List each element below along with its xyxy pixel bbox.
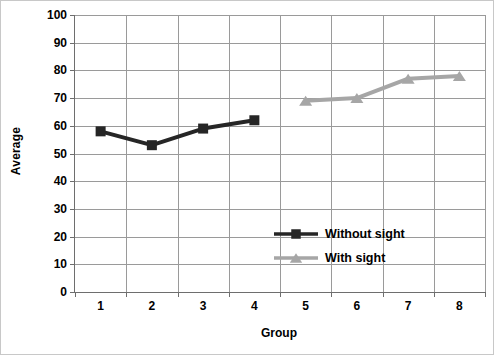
legend-swatch-triangle-icon — [273, 251, 319, 265]
y-tick-label: 0 — [60, 285, 67, 299]
series-line — [101, 120, 255, 145]
x-tick-label: 1 — [97, 299, 104, 313]
x-axis-title: Group — [74, 326, 484, 340]
x-tick-label: 8 — [456, 299, 463, 313]
data-point-marker — [249, 115, 259, 125]
x-tick-label: 5 — [302, 299, 309, 313]
legend-item-2: With sight — [273, 246, 433, 270]
x-tick-label: 2 — [149, 299, 156, 313]
y-tick-label: 70 — [54, 91, 67, 105]
y-tick-label: 50 — [54, 147, 67, 161]
x-tick-mark — [331, 292, 332, 297]
x-tick-mark — [434, 292, 435, 297]
legend-swatch-square-icon — [273, 227, 319, 241]
y-tick-label: 90 — [54, 36, 67, 50]
x-tick-mark — [178, 292, 179, 297]
x-tick-mark — [126, 292, 127, 297]
x-tick-label: 4 — [251, 299, 258, 313]
legend-label: Without sight — [325, 227, 405, 241]
x-tick-label: 6 — [354, 299, 361, 313]
x-tick-mark — [485, 292, 486, 297]
x-gridline — [485, 15, 486, 292]
legend-item-1: Without sight — [273, 222, 433, 246]
y-tick-label: 80 — [54, 63, 67, 77]
y-axis-title-text: Average — [9, 127, 23, 175]
x-tick-mark — [75, 292, 76, 297]
data-point-marker — [198, 124, 208, 134]
series-line — [306, 76, 460, 101]
x-tick-label: 7 — [405, 299, 412, 313]
y-tick-label: 40 — [54, 174, 67, 188]
chart-legend: Without sightWith sight — [273, 222, 433, 270]
data-point-marker — [96, 126, 106, 136]
y-tick-label: 20 — [54, 230, 67, 244]
y-tick-label: 60 — [54, 119, 67, 133]
series-1 — [96, 115, 260, 150]
y-axis-title: Average — [3, 1, 29, 301]
x-tick-label: 3 — [200, 299, 207, 313]
x-tick-mark — [383, 292, 384, 297]
y-tick-label: 30 — [54, 202, 67, 216]
y-tick-label: 100 — [47, 8, 67, 22]
series-2 — [299, 71, 466, 106]
plot-area: 0102030405060708090100 12345678 Without … — [74, 15, 485, 293]
x-tick-mark — [229, 292, 230, 297]
chart-figure: Average 0102030405060708090100 12345678 … — [0, 0, 494, 355]
data-point-marker — [147, 140, 157, 150]
x-tick-mark — [280, 292, 281, 297]
y-tick-label: 10 — [54, 257, 67, 271]
legend-label: With sight — [325, 251, 385, 265]
